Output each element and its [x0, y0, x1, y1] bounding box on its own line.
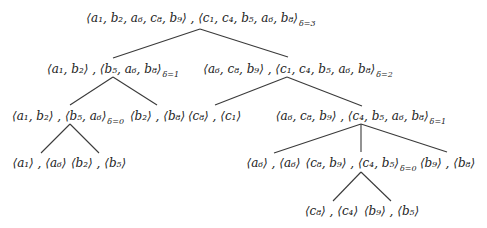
edge-l2d-l3c [274, 124, 361, 153]
node-label: ⟨a₁, b₂⟩ , ⟨b₅, a₆⟩ [12, 109, 106, 123]
node-root: ⟨a₁, b₂, a₆, c₈, b₉⟩ , ⟨c₁, c₄, b₅, a₆, … [86, 10, 315, 28]
node-label: ⟨c₈⟩ , ⟨c₄⟩ [305, 204, 358, 218]
delta-subscript: δ=0 [400, 164, 417, 173]
node-l3-b: ⟨b₂⟩ , ⟨b₅⟩ [71, 155, 127, 173]
edge-l2a-l3a [41, 124, 70, 153]
node-label: ⟨a₆, c₈, b₉⟩ , ⟨c₄, b₅, a₆, b₈⟩ [276, 109, 429, 123]
node-label: ⟨b₂⟩ , ⟨b₈⟩ [130, 109, 185, 123]
node-label: ⟨a₁, b₂, a₆, c₈, b₉⟩ , ⟨c₁, c₄, b₅, a₆, … [86, 11, 298, 25]
node-label: ⟨c₈, b₉⟩ , ⟨c₄, b₅⟩ [305, 156, 398, 170]
edge-l1left-l2b [113, 77, 157, 105]
node-label: ⟨b₂⟩ , ⟨b₅⟩ [71, 156, 126, 170]
node-l2-b: ⟨b₂⟩ , ⟨b₈⟩ [130, 108, 186, 126]
node-label: ⟨a₁, b₂⟩ , ⟨b₅, a₆, b₈⟩ [47, 62, 161, 76]
node-l4-b: ⟨b₉⟩ , ⟨b₅⟩ [364, 203, 420, 221]
node-label: ⟨a₆⟩ , ⟨a₆⟩ [246, 156, 300, 170]
node-l2-c: ⟨c₈⟩ , ⟨c₁⟩ [188, 108, 242, 126]
delta-subscript: δ=0 [107, 117, 124, 126]
edge-root-l1-right [200, 29, 288, 57]
node-l3-d: ⟨c₈, b₉⟩ , ⟨c₄, b₅⟩δ=0 [305, 155, 416, 173]
node-l3-a: ⟨a₁⟩ , ⟨a₆⟩ [12, 155, 67, 173]
edge-l1left-l2a [70, 77, 113, 105]
node-label: ⟨a₁⟩ , ⟨a₆⟩ [12, 156, 66, 170]
delta-subscript: δ=2 [376, 70, 393, 79]
node-label: ⟨c₈⟩ , ⟨c₁⟩ [188, 109, 241, 123]
node-label: ⟨a₆, c₈, b₉⟩ , ⟨c₁, c₄, b₅, a₆, b₈⟩ [203, 62, 375, 76]
node-l3-e: ⟨b₉⟩ , ⟨b₈⟩ [420, 155, 476, 173]
delta-subscript: δ=1 [430, 117, 447, 126]
edge-l3d-l4a [333, 172, 361, 201]
edge-l2a-l3b [70, 124, 99, 153]
node-l2-d: ⟨a₆, c₈, b₉⟩ , ⟨c₄, b₅, a₆, b₈⟩δ=1 [276, 108, 446, 126]
delta-subscript: δ=3 [299, 19, 316, 28]
edge-l1right-l2d [287, 77, 362, 106]
node-label: ⟨b₉⟩ , ⟨b₈⟩ [420, 156, 475, 170]
delta-subscript: δ=1 [162, 70, 179, 79]
edge-root-l1-left [113, 29, 200, 58]
node-l4-a: ⟨c₈⟩ , ⟨c₄⟩ [305, 203, 359, 221]
node-l3-c: ⟨a₆⟩ , ⟨a₆⟩ [246, 155, 301, 173]
node-l1-left: ⟨a₁, b₂⟩ , ⟨b₅, a₆, b₈⟩δ=1 [47, 61, 179, 79]
node-label: ⟨b₉⟩ , ⟨b₅⟩ [364, 204, 419, 218]
edge-l2d-l3e [361, 124, 447, 152]
node-l1-right: ⟨a₆, c₈, b₉⟩ , ⟨c₁, c₄, b₅, a₆, b₈⟩δ=2 [203, 61, 393, 79]
node-l2-a: ⟨a₁, b₂⟩ , ⟨b₅, a₆⟩δ=0 [12, 108, 124, 126]
edge-l3d-l4b [361, 172, 391, 201]
edge-l1right-l2c [215, 77, 287, 105]
